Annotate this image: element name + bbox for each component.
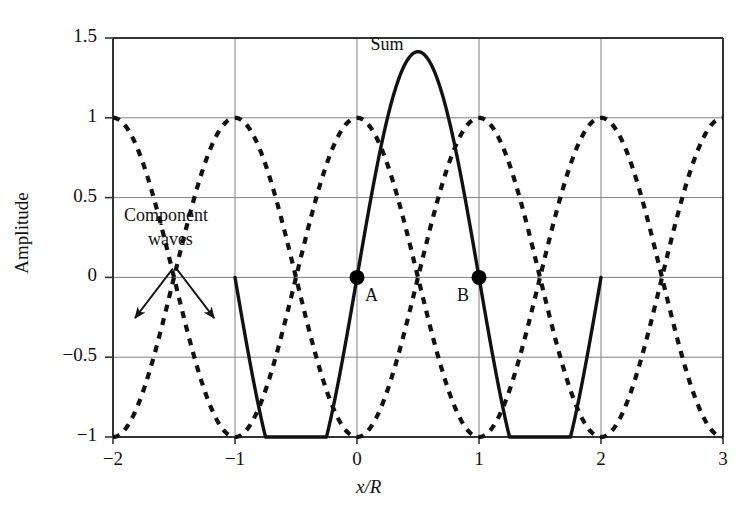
y-axis-label: Amplitude: [11, 173, 33, 293]
sum-curve-label: Sum: [370, 34, 403, 55]
x-tick-label: 3: [701, 448, 745, 470]
data-point-marker-a: [350, 270, 365, 285]
x-tick-label: −2: [91, 448, 135, 470]
marker-label-a: A: [365, 285, 378, 306]
x-tick-label: 2: [579, 448, 623, 470]
y-tick-label: 1: [41, 105, 97, 127]
y-tick-label: 1.5: [41, 25, 97, 47]
x-tick-label: −1: [213, 448, 257, 470]
x-tick-label: 1: [457, 448, 501, 470]
chart-figure: Amplitude x/R −2−10123 1.510.50−0.5−1 Su…: [0, 0, 754, 519]
y-tick-label: 0.5: [41, 185, 97, 207]
data-point-marker-b: [472, 270, 487, 285]
y-tick-label: 0: [41, 264, 97, 286]
x-axis-label: x/R: [356, 476, 381, 498]
component-waves-label-line2: waves: [148, 229, 193, 250]
y-tick-label: −0.5: [41, 344, 97, 366]
y-tick-label: −1: [41, 424, 97, 446]
amplitude-vs-x-over-r-chart: [0, 0, 754, 519]
x-tick-label: 0: [335, 448, 379, 470]
component-waves-label-line1: Component: [124, 205, 208, 226]
marker-label-b: B: [457, 285, 469, 306]
